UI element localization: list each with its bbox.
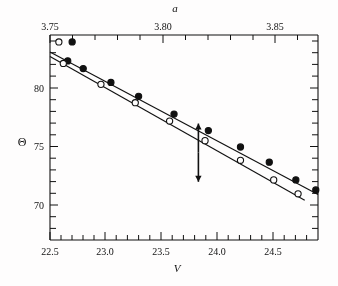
data-point-filled: [136, 93, 142, 99]
data-point-filled: [237, 144, 243, 150]
data-point-open: [295, 191, 301, 197]
scatter-plot: a 3.75 3.80 3.85: [0, 0, 338, 286]
left-axis-label: Θ: [18, 135, 27, 149]
bottom-tick-label: 22.5: [41, 246, 59, 257]
figure-container: a 3.75 3.80 3.85: [0, 0, 338, 286]
top-tick-label: 3.85: [266, 21, 284, 32]
bottom-tick-label: 24.0: [208, 246, 226, 257]
top-axis-label: a: [172, 2, 178, 14]
top-tick-label: 3.75: [41, 21, 59, 32]
data-point-filled: [69, 39, 75, 45]
plot-background: [0, 0, 338, 286]
data-point-filled: [313, 187, 319, 193]
bottom-tick-label: 23.0: [96, 246, 114, 257]
data-point-filled: [205, 127, 211, 133]
data-point-open: [167, 118, 173, 124]
data-point-open: [56, 39, 62, 45]
left-tick-label: 75: [34, 141, 44, 152]
data-point-open: [202, 138, 208, 144]
left-tick-label: 80: [34, 83, 44, 94]
data-point-open: [98, 81, 104, 87]
data-point-open: [60, 60, 66, 66]
top-tick-label: 3.80: [154, 21, 172, 32]
data-point-filled: [80, 65, 86, 71]
bottom-tick-label: 24.5: [264, 246, 282, 257]
left-tick-label: 70: [34, 200, 44, 211]
data-point-open: [237, 157, 243, 163]
bottom-tick-label: 23.5: [152, 246, 170, 257]
data-point-open: [132, 100, 138, 106]
data-point-filled: [293, 177, 299, 183]
data-point-filled: [266, 159, 272, 165]
data-point-filled: [171, 111, 177, 117]
data-point-open: [271, 177, 277, 183]
data-point-filled: [108, 79, 114, 85]
